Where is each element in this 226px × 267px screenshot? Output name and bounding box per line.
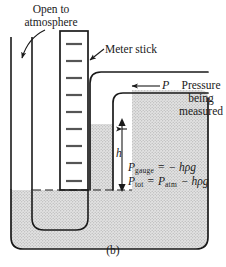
eq-gauge-lhs-subscript: gauge: [135, 166, 154, 175]
manometer-drawing: [0, 0, 226, 267]
eq-tot-rhs-subscript: atm: [165, 180, 177, 189]
eq-gauge-rhs: − hρg: [168, 161, 196, 173]
arrow-meter-stick: [90, 49, 104, 60]
eq-tot-rhs-tail: − hρg: [181, 175, 209, 187]
label-pressure-symbol: P: [162, 79, 169, 92]
eq-gauge-relation: =: [158, 161, 165, 173]
figure-caption: (b): [0, 244, 226, 257]
eq-gauge-lhs-symbol: P: [128, 161, 135, 173]
equation-gauge-pressure: Pgauge=− hρg: [128, 161, 196, 175]
open-tube-walls: [11, 37, 32, 190]
eq-tot-relation: =: [148, 175, 155, 187]
arrow-open-to-atmosphere: [22, 30, 45, 58]
label-height-h: h: [116, 147, 122, 160]
eq-tot-lhs-subscript: tot: [135, 180, 144, 189]
equation-total-pressure: Ptot=Patm− hρg: [128, 175, 209, 189]
label-pressure-being-measured: Pressure being measured: [176, 79, 226, 118]
label-open-to-atmosphere: Open to atmosphere: [8, 3, 94, 29]
eq-tot-lhs-symbol: P: [128, 175, 135, 187]
meter-stick-body: [60, 31, 88, 190]
label-meter-stick: Meter stick: [105, 43, 157, 56]
manometer-figure: Open to atmosphere Meter stick P Pressur…: [0, 0, 226, 267]
